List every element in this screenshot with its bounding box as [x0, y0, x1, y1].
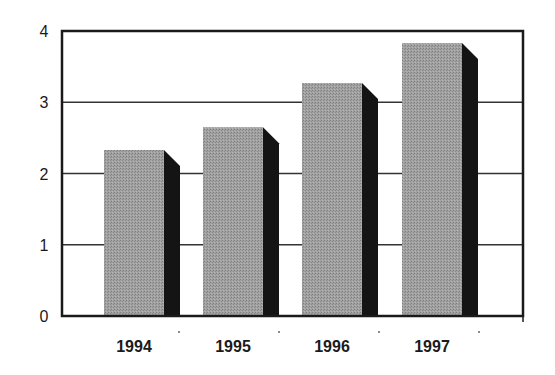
y-tick-label: 4: [40, 23, 49, 40]
bar-face: [402, 43, 462, 316]
x-tick-label: 1996: [314, 338, 350, 355]
x-tick-label: 1994: [116, 338, 152, 355]
bar-side: [164, 150, 180, 316]
y-axis-labels: 01234: [40, 23, 49, 325]
y-tick-label: 0: [40, 308, 49, 325]
bar-1994: [104, 150, 180, 316]
bar-face: [203, 127, 263, 316]
axis-tick-mark: [378, 331, 380, 333]
bar-side: [462, 43, 478, 316]
x-tick-label: 1997: [414, 338, 450, 355]
axis-tick-mark: [278, 331, 280, 333]
axis-tick-mark: [478, 331, 480, 333]
x-axis-labels: 1994199519961997: [116, 316, 523, 355]
bar-side: [362, 83, 378, 316]
bar-1997: [402, 43, 478, 316]
bars: [104, 43, 478, 316]
bar-chart: 01234 1994199519961997: [0, 0, 555, 375]
bar-face: [302, 83, 362, 316]
x-tick-label: 1995: [215, 338, 251, 355]
axis-tick-mark: [178, 331, 180, 333]
y-tick-label: 2: [40, 166, 49, 183]
bar-side: [263, 127, 279, 316]
bar-face: [104, 150, 164, 316]
bar-1995: [203, 127, 279, 316]
y-tick-label: 3: [40, 94, 49, 111]
bar-1996: [302, 83, 378, 316]
y-tick-label: 1: [40, 237, 49, 254]
